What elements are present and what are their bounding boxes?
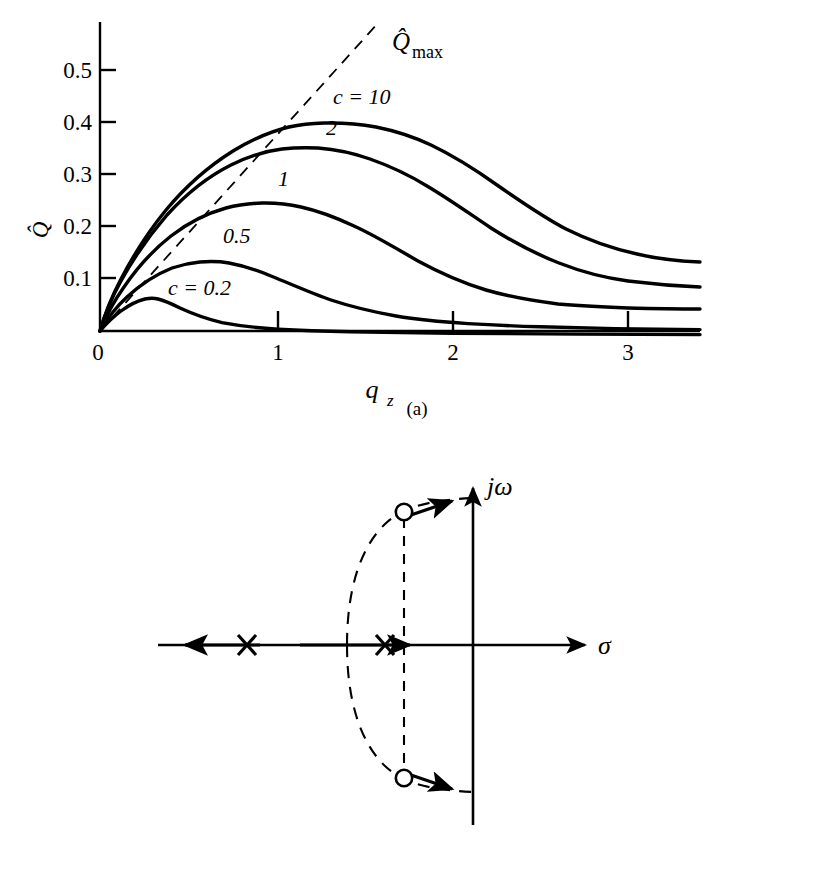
y-tick-label-2: 0.3 bbox=[63, 162, 92, 187]
q-max-annotation: Q̂ max bbox=[392, 28, 443, 62]
zero-marker-upper bbox=[396, 504, 412, 520]
q-max-label-sub: max bbox=[412, 42, 443, 62]
x-tick-label-1: 1 bbox=[272, 340, 284, 365]
zero-marker-lower bbox=[396, 770, 412, 786]
lower-arc-arrow bbox=[408, 774, 452, 789]
x-tick-label-2: 2 bbox=[447, 340, 459, 365]
y-axis-ticks bbox=[100, 70, 116, 278]
y-tick-label-1: 0.2 bbox=[63, 214, 92, 239]
y-tick-label-4: 0.5 bbox=[63, 58, 92, 83]
x-tick-label-0: 0 bbox=[92, 340, 104, 365]
curve-c-2 bbox=[100, 148, 700, 331]
locus-arc-lower bbox=[347, 645, 473, 792]
x-tick-label-3: 3 bbox=[622, 340, 634, 365]
curve-label-c-10: c = 10 bbox=[333, 84, 391, 109]
real-axis-label: σ bbox=[598, 631, 612, 660]
curve-label-c-0.5: 0.5 bbox=[223, 223, 251, 248]
panel-b-root-locus: jω σ bbox=[0, 440, 826, 883]
curve-label-c-0.2: c = 0.2 bbox=[168, 275, 231, 300]
curve-label-c-1: 1 bbox=[278, 166, 289, 191]
panel-a-caption: (a) bbox=[357, 398, 477, 420]
panel-a-svg: 0.1 0.2 0.3 0.4 0.5 0 1 2 3 Q̂ q z Q̂ ma… bbox=[0, 0, 826, 440]
q-max-label-main: Q̂ bbox=[392, 28, 410, 55]
locus-arc-upper bbox=[347, 498, 473, 645]
curve-label-c-2: 2 bbox=[326, 115, 337, 140]
panel-a-chart: 0.1 0.2 0.3 0.4 0.5 0 1 2 3 Q̂ q z Q̂ ma… bbox=[0, 0, 826, 440]
panel-b-svg: jω σ bbox=[0, 440, 826, 883]
y-tick-label-3: 0.4 bbox=[63, 110, 92, 135]
figure-page: 0.1 0.2 0.3 0.4 0.5 0 1 2 3 Q̂ q z Q̂ ma… bbox=[0, 0, 826, 883]
y-tick-label-0: 0.1 bbox=[63, 266, 92, 291]
imaginary-axis-label: jω bbox=[484, 472, 513, 501]
upper-arc-arrow bbox=[408, 501, 452, 516]
y-axis-title: Q̂ bbox=[27, 221, 53, 238]
